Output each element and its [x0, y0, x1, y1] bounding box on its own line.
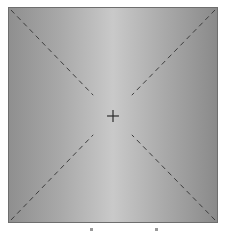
diagonal-bottom-right [132, 135, 215, 220]
mark-right [155, 228, 158, 231]
bottom-marks [0, 228, 227, 232]
diagonal-guides [9, 8, 217, 222]
image-canvas [8, 7, 218, 223]
diagonal-top-left [11, 10, 93, 95]
mark-left [90, 228, 93, 231]
crosshair-icon [107, 110, 119, 122]
diagonal-top-right [132, 10, 215, 95]
diagonal-bottom-left [11, 135, 93, 220]
